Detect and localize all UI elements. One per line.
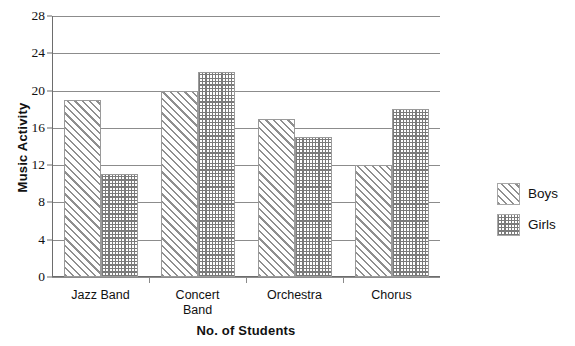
bar-group [161,16,235,277]
legend: BoysGirls [497,183,572,245]
x-axis-title: No. of Students [52,323,440,338]
y-axis-line [52,16,53,277]
y-tick-label-20: 20 [32,84,46,98]
legend-item-girls[interactable]: Girls [497,214,572,236]
legend-swatch-girls [497,214,520,236]
legend-item-boys[interactable]: Boys [497,183,572,205]
y-tick-label-4: 4 [38,233,45,247]
y-tick-label-12: 12 [32,158,46,172]
bar[interactable] [101,174,138,277]
legend-label: Girls [528,218,556,232]
y-axis-title: Music Activity [15,78,30,218]
bar[interactable] [392,109,429,277]
y-tick-label-24: 24 [32,47,46,61]
bar[interactable] [64,100,101,277]
x-axis-tick-mark [246,277,247,283]
bar-group [355,16,429,277]
legend-label: Boys [528,187,558,201]
plot-area: 0481216202428 Jazz BandConcert BandOrche… [52,16,440,277]
y-tick-label-8: 8 [38,196,45,210]
bar[interactable] [355,165,392,277]
bar[interactable] [258,119,295,277]
y-tick-label-28: 28 [32,9,46,23]
x-axis-tick-mark [149,277,150,283]
x-axis-category-label: Chorus [337,288,447,303]
legend-swatch-boys [497,183,520,205]
bar-group [64,16,138,277]
plot-inner: 0481216202428 Jazz BandConcert BandOrche… [52,16,440,277]
bar[interactable] [198,72,235,277]
x-axis-category-label: Concert Band [143,288,253,318]
y-tick-label-16: 16 [32,121,46,135]
x-axis-tick-mark [343,277,344,283]
x-axis-category-label: Jazz Band [46,288,156,303]
bar[interactable] [161,91,198,277]
y-tick-label-0: 0 [38,270,45,284]
x-axis-category-label: Orchestra [240,288,350,303]
bar-group [258,16,332,277]
bar-chart-figure: Music Activity 0481216202428 Jazz BandCo… [0,0,575,346]
bar[interactable] [295,137,332,277]
